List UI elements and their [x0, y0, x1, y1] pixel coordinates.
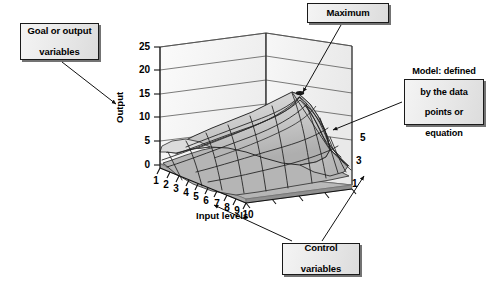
callout-goal-or-output-variables: Goal or output variables	[20, 23, 99, 60]
output-tick-0: 0	[132, 159, 150, 170]
callout-model-line-3: points or	[410, 107, 477, 117]
leader-goal	[62, 62, 116, 104]
output-tick-25: 25	[132, 41, 150, 52]
callout-model-line-4: equation	[410, 128, 477, 138]
callout-model: Model: defined by the data points or equ…	[404, 79, 484, 125]
callout-maximum-label: Maximum	[324, 8, 371, 19]
output-tick-5: 5	[132, 135, 150, 146]
callout-maximum: Maximum	[307, 3, 389, 23]
control-tick-1: 1	[352, 178, 366, 189]
input-tick-10: 10	[239, 209, 257, 220]
output-tick-10: 10	[132, 111, 150, 122]
callout-control-variables: Control variables	[282, 243, 360, 275]
control-tick-5: 5	[360, 132, 374, 143]
output-tick-20: 20	[132, 64, 150, 75]
output-axis-title: Output	[112, 84, 126, 130]
callout-control-line-2: variables	[299, 264, 343, 275]
callout-control-line-1: Control	[299, 243, 343, 254]
callout-goal-line-1: Goal or output	[25, 26, 93, 37]
callout-goal-line-2: variables	[25, 47, 93, 58]
callout-model-line-1: Model: defined	[410, 66, 477, 76]
output-tick-15: 15	[132, 88, 150, 99]
callout-model-line-2: by the data	[410, 87, 477, 97]
control-tick-3: 3	[356, 155, 370, 166]
output-axis-ticks	[154, 47, 160, 165]
